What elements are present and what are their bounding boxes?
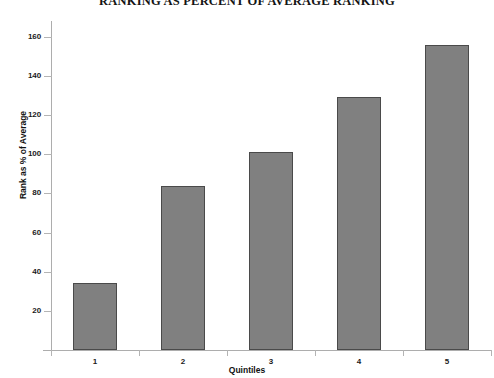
bar-3 — [249, 152, 293, 350]
y-axis-tick-label: 60 — [32, 228, 41, 237]
y-axis-tick-label: 120 — [28, 110, 41, 119]
y-axis-line — [51, 21, 52, 351]
bar-chart: RANKING AS PERCENT OF AVERAGE RANKING 20… — [0, 0, 494, 378]
y-axis-tick: 80 — [44, 193, 52, 194]
x-axis-line — [43, 350, 491, 351]
bar-2 — [161, 186, 205, 351]
y-axis-tick-label: 160 — [28, 32, 41, 41]
x-axis-tick — [139, 350, 140, 356]
y-axis-tick-label: 80 — [32, 188, 41, 197]
y-axis-tick-label: 140 — [28, 71, 41, 80]
y-axis-tick: 160 — [44, 37, 52, 38]
bar-4 — [337, 97, 381, 350]
y-axis-title: Rank as % of Average — [18, 75, 28, 235]
y-axis-tick: 140 — [44, 76, 52, 77]
x-axis-tick — [227, 350, 228, 356]
bar-5 — [425, 45, 469, 351]
y-axis-tick: 20 — [44, 311, 52, 312]
y-axis-tick-label: 100 — [28, 149, 41, 158]
y-axis-tick: 40 — [44, 272, 52, 273]
y-axis-tick: 60 — [44, 233, 52, 234]
y-axis-tick: 120 — [44, 115, 52, 116]
x-axis-tick — [315, 350, 316, 356]
chart-title: RANKING AS PERCENT OF AVERAGE RANKING — [0, 0, 494, 9]
x-axis-tick — [491, 350, 492, 356]
y-axis-tick-label: 20 — [32, 306, 41, 315]
bar-1 — [73, 283, 117, 350]
y-axis-tick-label: 40 — [32, 267, 41, 276]
x-axis-title: Quintiles — [0, 365, 494, 375]
x-axis-tick — [403, 350, 404, 356]
x-axis-tick — [51, 350, 52, 356]
y-axis-tick: 100 — [44, 154, 52, 155]
